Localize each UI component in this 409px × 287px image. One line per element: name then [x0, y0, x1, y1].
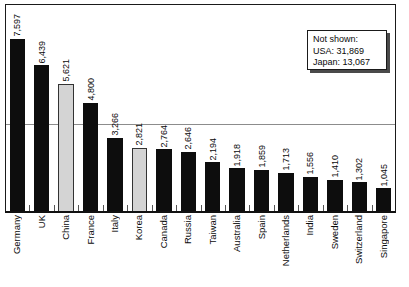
bar-value-label: 1,410 [330, 155, 340, 178]
category-label-spain: Spain [257, 215, 267, 239]
bar-value-label: 1,302 [354, 158, 364, 181]
category-label-china: China [61, 215, 71, 240]
bar-group: 2,764 [156, 4, 171, 212]
category-label-italy: Italy [110, 215, 120, 232]
bar-group: 6,439 [34, 4, 49, 212]
bar-china [58, 84, 73, 212]
annotation-heading: Not shown: [313, 34, 386, 46]
bar-canada [156, 149, 171, 212]
bar-taiwan [205, 162, 220, 212]
bar-netherlands [278, 173, 293, 212]
bar-sweden [327, 180, 342, 212]
category-label-australia: Australia [232, 215, 242, 252]
bar-value-label: 1,713 [281, 148, 291, 171]
category-label-taiwan: Taiwan [208, 215, 218, 245]
bar-value-label: 2,764 [159, 125, 169, 148]
bar-value-label: 1,918 [232, 144, 242, 167]
category-label-canada: Canada [159, 215, 169, 248]
category-label-singapore: Singapore [379, 215, 389, 258]
bar-group: 5,621 [58, 4, 73, 212]
bar-value-label: 4,800 [86, 78, 96, 101]
bar-value-label: 1,859 [257, 145, 267, 168]
bar-uk [34, 65, 49, 212]
category-label-sweden: Sweden [330, 215, 340, 249]
bar-france [83, 103, 98, 212]
category-label-india: India [305, 215, 315, 236]
bar-italy [107, 138, 122, 212]
bar-value-label: 3,266 [110, 113, 120, 136]
category-label-france: France [86, 215, 96, 245]
bar-group: 2,194 [205, 4, 220, 212]
bar-group: 2,646 [181, 4, 196, 212]
category-labels-container: GermanyUKChinaFranceItalyKoreaCanadaRuss… [5, 213, 396, 287]
bar-group: 2,821 [132, 4, 147, 212]
bar-value-label: 5,621 [61, 59, 71, 82]
bar-value-label: 7,597 [12, 14, 22, 37]
category-label-russia: Russia [183, 215, 193, 244]
annotation-line-usa: USA: 31,869 [313, 46, 386, 58]
category-label-germany: Germany [12, 215, 22, 254]
bar-group: 3,266 [107, 4, 122, 212]
bar-value-label: 2,646 [183, 127, 193, 150]
bar-russia [181, 152, 196, 212]
bar-india [303, 177, 318, 212]
bar-singapore [376, 188, 391, 212]
bar-germany [10, 39, 25, 212]
bar-value-label: 1,045 [379, 164, 389, 187]
annotation-line-japan: Japan: 13,067 [313, 57, 386, 69]
category-label-korea: Korea [134, 215, 144, 240]
not-shown-callout: Not shown: USA: 31,869 Japan: 13,067 [307, 30, 387, 70]
bar-group: 4,800 [83, 4, 98, 212]
bar-group: 1,918 [229, 4, 244, 212]
bar-group: 1,713 [278, 4, 293, 212]
bar-value-label: 2,821 [134, 123, 144, 146]
category-label-netherlands: Netherlands [281, 215, 291, 266]
bar-australia [229, 168, 244, 212]
bar-value-label: 6,439 [37, 41, 47, 64]
bar-value-label: 2,194 [208, 138, 218, 161]
category-label-uk: UK [37, 215, 47, 228]
bar-spain [254, 170, 269, 212]
bar-korea [132, 148, 147, 212]
category-label-switzerland: Switzerland [354, 215, 364, 264]
bar-chart: 7,5976,4395,6214,8003,2662,8212,7642,646… [0, 0, 409, 287]
bar-group: 1,859 [254, 4, 269, 212]
bar-switzerland [352, 182, 367, 212]
bar-value-label: 1,556 [305, 152, 315, 175]
bar-group: 7,597 [10, 4, 25, 212]
